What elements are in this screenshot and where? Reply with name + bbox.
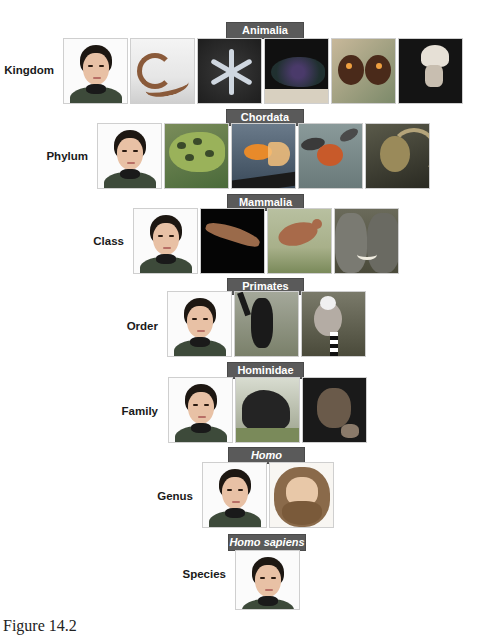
image-strip: [63, 38, 463, 104]
bat-photo: [200, 208, 265, 274]
chimpanzee-photo: [302, 377, 367, 443]
taxon-badge: Homo sapiens: [229, 535, 305, 550]
image-strip: [235, 550, 300, 610]
human-woman-photo: [97, 123, 162, 189]
figure-caption: Figure 14.2: [3, 617, 77, 635]
image-strip: [167, 291, 366, 357]
taxon-badge: Homo: [229, 448, 304, 463]
butterfly-photo: [331, 38, 396, 104]
human-woman-photo: [168, 377, 233, 443]
human-woman-photo: [133, 208, 198, 274]
rank-label: Phylum: [0, 150, 88, 162]
rank-label: Species: [0, 568, 226, 580]
gibbon-photo: [234, 291, 299, 357]
rank-label: Kingdom: [0, 64, 54, 76]
image-strip: [133, 208, 399, 274]
kangaroo-photo: [267, 208, 332, 274]
earthworm-photo: [130, 38, 195, 104]
neanderthal-illustration: [269, 462, 334, 528]
goldfish-photo: [231, 123, 296, 189]
human-woman-photo: [63, 38, 128, 104]
image-strip: [202, 462, 334, 528]
image-strip: [168, 377, 367, 443]
brittle-star-photo: [197, 38, 262, 104]
rank-label: Genus: [0, 490, 193, 502]
gorilla-photo: [235, 377, 300, 443]
taxon-badge: Hominidae: [228, 363, 303, 378]
elephants-photo: [334, 208, 399, 274]
image-strip: [97, 123, 430, 189]
rank-label: Family: [0, 405, 158, 417]
sea-slug-photo: [264, 38, 329, 104]
rank-label: Order: [0, 320, 158, 332]
leopard-frog-photo: [164, 123, 229, 189]
ring-tailed-lemur-photo: [301, 291, 366, 357]
taxon-badge: Animalia: [227, 23, 303, 38]
human-woman-photo: [202, 462, 267, 528]
rank-label: Class: [0, 235, 124, 247]
lizard-photo: [365, 123, 430, 189]
human-woman-photo: [167, 291, 232, 357]
human-woman-photo: [235, 550, 300, 610]
bird-in-flight-photo: [298, 123, 363, 189]
jellyfish-photo: [398, 38, 463, 104]
